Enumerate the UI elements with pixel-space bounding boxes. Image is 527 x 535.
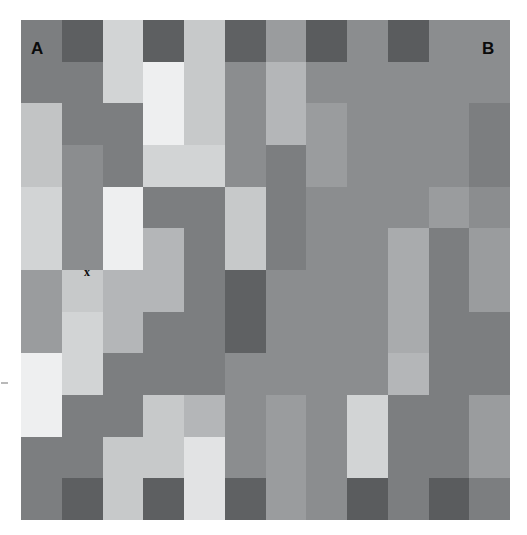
mosaic-patch [388, 395, 429, 437]
label-b: B [482, 40, 494, 57]
mosaic-patch [103, 187, 144, 229]
mosaic-patch [143, 187, 184, 229]
mosaic-patch [347, 103, 388, 145]
mosaic-patch [388, 312, 429, 354]
mosaic-patch [62, 270, 103, 312]
mosaic-patch [143, 312, 184, 354]
mosaic-patch [21, 270, 62, 312]
mosaic-patch [143, 270, 184, 312]
mosaic-patch [184, 312, 225, 354]
mosaic-patch [429, 312, 470, 354]
mosaic-patch [62, 187, 103, 229]
mosaic-patch [388, 20, 429, 62]
mosaic-patch [21, 103, 62, 145]
mosaic-patch [62, 62, 103, 104]
mosaic-patch [429, 103, 470, 145]
mosaic-patch [469, 103, 510, 145]
mosaic-patch [143, 395, 184, 437]
mosaic-patch [306, 478, 347, 520]
mosaic-patch [225, 353, 266, 395]
mosaic-patch [184, 103, 225, 145]
mosaic-patch [266, 270, 307, 312]
mosaic-patch [103, 437, 144, 479]
mosaic-patch [266, 312, 307, 354]
mosaic-patch [62, 103, 103, 145]
mosaic-patch [429, 187, 470, 229]
mosaic-patch [429, 478, 470, 520]
mosaic-patch [469, 187, 510, 229]
mosaic-patch [225, 270, 266, 312]
mosaic-patch [266, 103, 307, 145]
mosaic-patch [347, 62, 388, 104]
mosaic-patch [347, 478, 388, 520]
mosaic-patch [103, 62, 144, 104]
mosaic-patch [62, 353, 103, 395]
mosaic-patch [306, 145, 347, 187]
mosaic-patch [62, 228, 103, 270]
mosaic-patch [266, 437, 307, 479]
grayscale-mosaic-grid [21, 20, 510, 520]
mosaic-patch [469, 353, 510, 395]
mosaic-patch [266, 228, 307, 270]
mosaic-patch [347, 228, 388, 270]
mosaic-patch [143, 353, 184, 395]
mosaic-patch [347, 437, 388, 479]
mosaic-patch [62, 395, 103, 437]
mosaic-patch [306, 62, 347, 104]
mosaic-patch [306, 187, 347, 229]
mosaic-patch [225, 20, 266, 62]
mosaic-patch [143, 62, 184, 104]
mosaic-patch [21, 312, 62, 354]
mosaic-patch [388, 270, 429, 312]
mosaic-patch [429, 20, 470, 62]
mosaic-patch [266, 62, 307, 104]
mosaic-patch [225, 145, 266, 187]
mosaic-patch [306, 437, 347, 479]
mosaic-patch [306, 395, 347, 437]
mosaic-patch [62, 478, 103, 520]
mosaic-patch [62, 20, 103, 62]
mosaic-patch [469, 395, 510, 437]
mosaic-patch [184, 187, 225, 229]
mosaic-patch [266, 353, 307, 395]
mosaic-patch [388, 62, 429, 104]
mosaic-patch [225, 478, 266, 520]
mosaic-patch [143, 103, 184, 145]
mosaic-patch [184, 353, 225, 395]
mosaic-patch [429, 437, 470, 479]
mosaic-patch [225, 187, 266, 229]
mosaic-patch [388, 145, 429, 187]
mosaic-patch [266, 187, 307, 229]
mosaic-patch [184, 270, 225, 312]
mosaic-patch [225, 228, 266, 270]
mosaic-patch [21, 353, 62, 395]
mosaic-patch [103, 228, 144, 270]
mosaic-patch [388, 478, 429, 520]
mosaic-patch [21, 62, 62, 104]
mosaic-patch [62, 145, 103, 187]
mosaic-patch [184, 145, 225, 187]
mosaic-patch [429, 62, 470, 104]
mosaic-patch [266, 145, 307, 187]
mosaic-patch [21, 395, 62, 437]
mosaic-patch [306, 270, 347, 312]
mosaic-patch [347, 312, 388, 354]
mosaic-patch [143, 478, 184, 520]
mosaic-patch [143, 228, 184, 270]
mosaic-patch [469, 228, 510, 270]
mosaic-patch [21, 478, 62, 520]
mosaic-patch [184, 20, 225, 62]
mosaic-patch [469, 437, 510, 479]
mosaic-patch [469, 478, 510, 520]
mosaic-patch [143, 437, 184, 479]
figure-root: ABx [0, 0, 527, 535]
mosaic-patch [225, 312, 266, 354]
mosaic-patch [306, 103, 347, 145]
mosaic-patch [21, 228, 62, 270]
mosaic-patch [184, 228, 225, 270]
mosaic-patch [184, 62, 225, 104]
mosaic-patch [469, 62, 510, 104]
mosaic-patch [225, 62, 266, 104]
mosaic-patch [388, 187, 429, 229]
mosaic-patch [103, 20, 144, 62]
